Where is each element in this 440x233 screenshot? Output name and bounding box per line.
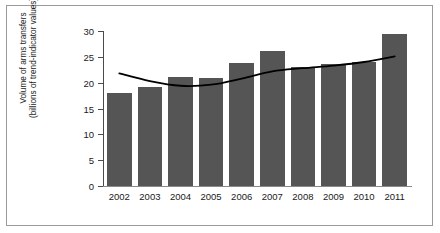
plot-area: [104, 31, 410, 186]
x-axis-tick-label: 2009: [318, 191, 349, 202]
x-axis-tick-label: 2002: [104, 191, 135, 202]
y-axis-tick: [98, 57, 103, 58]
x-axis-tick-label: 2007: [257, 191, 288, 202]
y-axis-tick: [98, 134, 103, 135]
x-axis-tick-label: 2006: [226, 191, 257, 202]
y-axis-tick: [98, 186, 103, 187]
y-axis-tick-label: 20: [70, 78, 94, 88]
y-axis-tick-label: 25: [70, 52, 94, 62]
y-axis-title: Volume of arms transfers (billions of tr…: [19, 0, 39, 136]
y-axis-tick-label: 0: [70, 182, 94, 192]
y-axis-tick-label: 30: [70, 27, 94, 37]
y-axis-tick: [98, 83, 103, 84]
y-axis-tick-label: 15: [70, 104, 94, 114]
y-axis-tick: [98, 31, 103, 32]
x-axis-line: [103, 186, 412, 187]
y-axis-tick-label: 10: [70, 130, 94, 140]
y-axis-tick: [98, 109, 103, 110]
trend-line-path: [119, 56, 394, 86]
y-axis-tick-label: 5: [70, 156, 94, 166]
x-axis-tick-label: 2010: [349, 191, 380, 202]
y-axis-title-line1: Volume of arms transfers: [19, 0, 29, 136]
y-axis-tick: [98, 160, 103, 161]
trend-line-series: [104, 31, 410, 186]
x-axis-tick-label: 2008: [288, 191, 319, 202]
x-axis-tick-label: 2011: [379, 191, 410, 202]
x-axis-tick-label: 2004: [165, 191, 196, 202]
x-axis-tick-label: 2003: [135, 191, 166, 202]
y-axis-title-line2: (billions of trend-indicator values): [29, 0, 39, 136]
chart-figure: Volume of arms transfers (billions of tr…: [0, 0, 440, 233]
x-axis-tick-label: 2005: [196, 191, 227, 202]
